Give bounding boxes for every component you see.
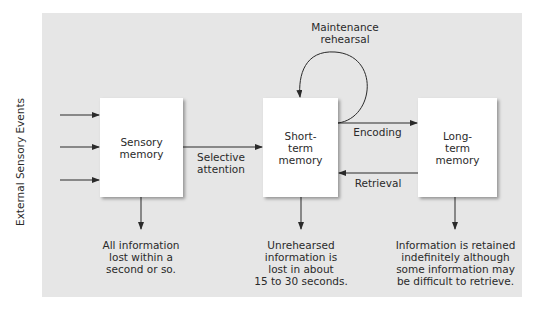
- selective-attention-label: Selective attention: [186, 151, 256, 175]
- maintenance-rehearsal-label: Maintenance rehearsal: [300, 21, 390, 45]
- short-term-memory-box: Short- term memory: [263, 98, 338, 197]
- long-term-outcome-text: Information is retained indefinitely alt…: [388, 239, 523, 287]
- encoding-label: Encoding: [345, 126, 410, 138]
- long-term-memory-label: Long- term memory: [436, 130, 480, 166]
- short-term-memory-label: Short- term memory: [279, 130, 323, 166]
- sensory-memory-label: Sensory memory: [120, 136, 164, 160]
- short-term-outcome-text: Unrehearsed information is lost in about…: [246, 239, 356, 287]
- sensory-outcome-text: All information lost within a second or …: [91, 239, 191, 275]
- sensory-memory-box: Sensory memory: [100, 98, 183, 197]
- retrieval-label: Retrieval: [348, 177, 408, 189]
- long-term-memory-box: Long- term memory: [418, 98, 497, 197]
